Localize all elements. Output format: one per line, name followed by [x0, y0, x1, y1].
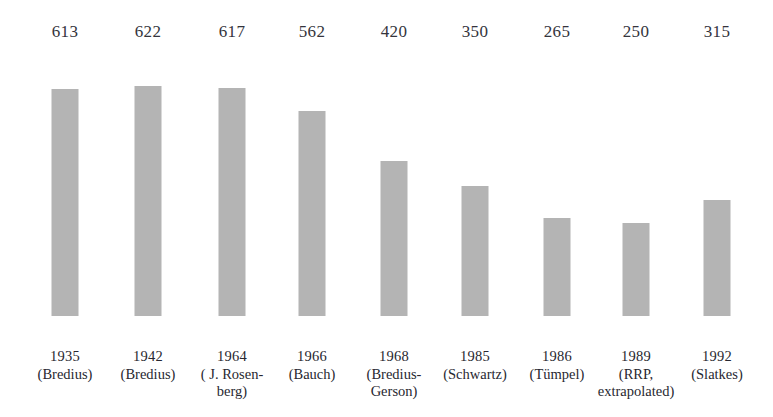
bar-value-label: 265	[544, 22, 571, 42]
bar-value-label: 315	[704, 22, 731, 42]
bar	[623, 223, 650, 316]
bar-value-label: 562	[299, 22, 326, 42]
bar-slot	[381, 161, 408, 316]
bar-category-label: 1992(Slatkes)	[665, 348, 769, 383]
bar-value-label: 622	[135, 22, 162, 42]
bar	[704, 200, 731, 316]
bar	[135, 86, 162, 316]
bar-value-label: 420	[381, 22, 408, 42]
bar	[219, 88, 246, 316]
bar-value-label: 350	[462, 22, 489, 42]
bar-slot	[52, 89, 79, 316]
bar-slot	[135, 86, 162, 316]
bar-value-label: 613	[52, 22, 79, 42]
bar-slot	[623, 223, 650, 316]
bar-slot	[219, 88, 246, 316]
bar	[299, 111, 326, 316]
bar	[52, 89, 79, 316]
bar-value-label: 250	[623, 22, 650, 42]
category-source-line2: Gerson)	[342, 383, 446, 401]
category-source-line2: extrapolated)	[584, 383, 688, 401]
bar-slot	[462, 186, 489, 316]
bar	[544, 218, 571, 316]
bar	[381, 161, 408, 316]
bar-slot	[544, 218, 571, 316]
bar	[462, 186, 489, 316]
category-source: (Slatkes)	[665, 366, 769, 384]
category-year: 1992	[665, 348, 769, 366]
bar-slot	[299, 111, 326, 316]
category-source-line2: berg)	[180, 383, 284, 401]
bar-value-label: 617	[219, 22, 246, 42]
bar-slot	[704, 200, 731, 316]
bar-chart-figure: 6131935(Bredius)6221942(Bredius)6171964(…	[0, 0, 773, 417]
